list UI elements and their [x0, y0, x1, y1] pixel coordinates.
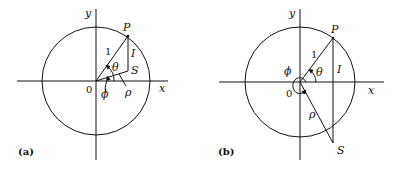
- point-s-label: S: [131, 64, 139, 77]
- point-p-label: P: [122, 21, 131, 34]
- segment-op: [96, 36, 128, 81]
- x-axis-label: x: [368, 84, 375, 97]
- angle-theta-label: θ: [316, 66, 323, 79]
- panel-b: y x 0 P S 1 I ρ θ ϕ (b): [218, 7, 384, 160]
- panel-a-caption: (a): [18, 146, 34, 157]
- point-s-label: S: [337, 144, 345, 157]
- point-p-dot: [127, 35, 130, 38]
- panel-b-caption: (b): [218, 146, 234, 157]
- segment-os-label: ρ: [308, 108, 316, 121]
- angle-phi-label: ϕ: [101, 88, 109, 101]
- origin-label: 0: [286, 88, 292, 99]
- point-p-label: P: [330, 23, 339, 36]
- origin-label: 0: [86, 84, 92, 95]
- phi-arc: [293, 78, 306, 94]
- phi-arc: [108, 77, 109, 81]
- segment-op-label: 1: [105, 46, 111, 57]
- angle-theta-label: θ: [112, 61, 119, 74]
- segment-ps-label: I: [130, 47, 136, 60]
- angle-phi-label: ϕ: [284, 65, 292, 78]
- segment-op-label: 1: [311, 49, 317, 60]
- figure-canvas: y x 0 P S 1 I ρ θ ϕ (a) y x 0 P S 1 I ρ …: [0, 0, 398, 171]
- x-axis-label: x: [159, 82, 166, 95]
- segment-ps-label: I: [336, 63, 342, 76]
- y-axis-label: y: [288, 7, 296, 20]
- rho-leader: [119, 74, 126, 86]
- y-axis-label: y: [84, 7, 92, 20]
- segment-os-label: ρ: [124, 86, 132, 99]
- point-p-dot: [332, 37, 335, 40]
- panel-a: y x 0 P S 1 I ρ θ ϕ (a): [17, 7, 168, 160]
